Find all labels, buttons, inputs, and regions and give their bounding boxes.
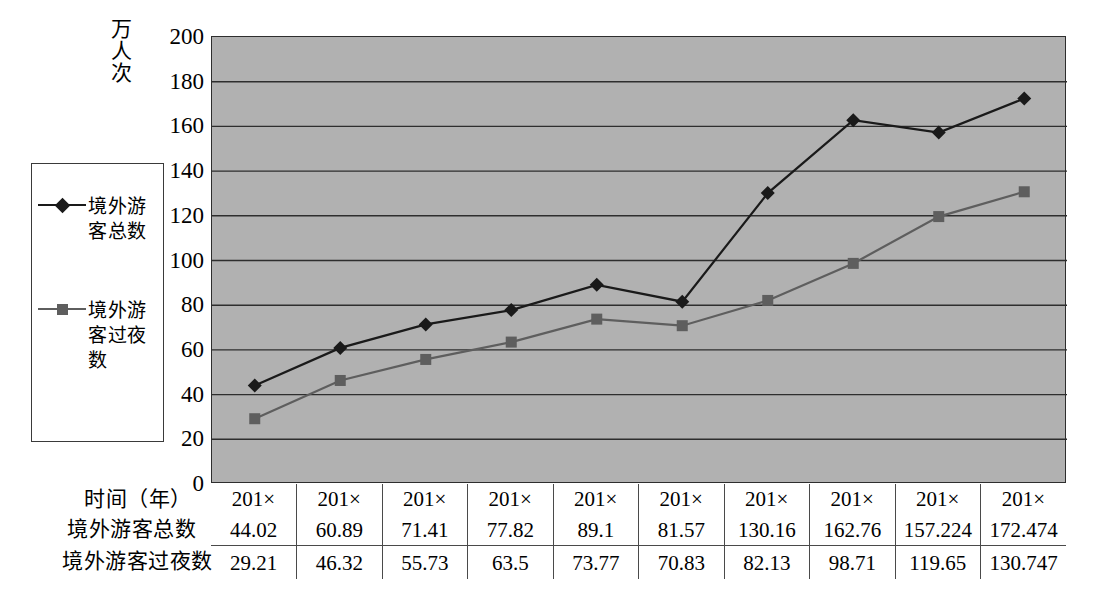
table-cell: 201× (981, 484, 1067, 514)
table-cell: 82.13 (724, 546, 810, 580)
data-point-marker-square (420, 354, 431, 365)
legend-label-overnight: 境外游客过夜数 (88, 298, 162, 373)
table-cell: 81.57 (639, 514, 725, 546)
plot-area (211, 36, 1066, 483)
table-cell: 201× (724, 484, 810, 514)
chart-legend: 境外游客总数 境外游客过夜数 (31, 163, 164, 442)
data-point-marker-diamond (932, 126, 946, 140)
table-cell: 29.21 (211, 546, 297, 580)
table-row-total: 44.0260.8971.4177.8289.181.57130.16162.7… (211, 514, 1066, 546)
chart-container: 万人次 200180160140120100806040200 境外游客总数 境… (0, 0, 1093, 598)
data-point-marker-square (506, 337, 517, 348)
plot-svg (212, 37, 1067, 484)
table-cell: 55.73 (382, 546, 468, 580)
table-cell: 162.76 (810, 514, 896, 546)
legend-label-total: 境外游客总数 (88, 194, 162, 244)
table-cell: 201× (553, 484, 639, 514)
table-row-overnight: 29.2146.3255.7363.573.7770.8382.1398.711… (211, 546, 1066, 580)
series-line-total (255, 99, 1025, 386)
table-cell: 201× (211, 484, 297, 514)
y-tick-label: 180 (144, 70, 204, 93)
table-cell: 73.77 (553, 546, 639, 580)
data-point-marker-square (933, 211, 944, 222)
table-cell: 77.82 (468, 514, 554, 546)
table-cell: 130.16 (724, 514, 810, 546)
table-cell: 201× (639, 484, 725, 514)
table-cell: 60.89 (297, 514, 383, 546)
table-cell: 71.41 (382, 514, 468, 546)
data-point-marker-diamond (590, 278, 604, 292)
table-row-labels: 时间（年） 境外游客总数 境外游客过夜数 (62, 484, 208, 578)
data-point-marker-square (848, 258, 859, 269)
data-point-marker-diamond (333, 341, 347, 355)
table-cell: 201× (297, 484, 383, 514)
legend-entry-overnight: 境外游客过夜数 (32, 298, 165, 373)
data-point-marker-diamond (419, 317, 433, 331)
table-cell: 201× (382, 484, 468, 514)
data-point-marker-diamond (248, 379, 262, 393)
table-cell: 98.71 (810, 546, 896, 580)
table-cell: 44.02 (211, 514, 297, 546)
table-cell: 63.5 (468, 546, 554, 580)
data-point-marker-square (591, 314, 602, 325)
data-point-marker-square (677, 320, 688, 331)
y-tick-label: 160 (144, 114, 204, 137)
data-point-marker-square (335, 375, 346, 386)
data-point-marker-square (762, 295, 773, 306)
series-layer (248, 92, 1032, 425)
table-row-time: 201×201×201×201×201×201×201×201×201×201× (211, 484, 1066, 514)
table-cell: 172.474 (981, 514, 1067, 546)
data-point-marker-square (249, 413, 260, 424)
data-point-marker-square (1019, 186, 1030, 197)
legend-entry-total: 境外游客总数 (32, 194, 165, 244)
table-cell: 46.32 (297, 546, 383, 580)
table-row-label-time: 时间（年） (84, 484, 230, 514)
table-cell: 130.747 (981, 546, 1067, 580)
data-table-grid: 201×201×201×201×201×201×201×201×201×201×… (211, 484, 1066, 579)
data-point-marker-diamond (1017, 92, 1031, 106)
y-axis-title: 万人次 (100, 18, 130, 128)
legend-sample-square (38, 298, 86, 320)
table-row-label-total: 境外游客总数 (67, 514, 213, 544)
table-cell: 157.224 (895, 514, 981, 546)
legend-sample-diamond (38, 194, 86, 216)
table-cell: 201× (895, 484, 981, 514)
table-cell: 201× (810, 484, 896, 514)
table-cell: 70.83 (639, 546, 725, 580)
data-table: 201×201×201×201×201×201×201×201×201×201×… (211, 484, 1066, 578)
table-cell: 201× (468, 484, 554, 514)
table-cell: 89.1 (553, 514, 639, 546)
y-tick-label: 200 (144, 25, 204, 48)
table-cell: 119.65 (895, 546, 981, 580)
table-row-label-overnight: 境外游客过夜数 (62, 546, 208, 576)
